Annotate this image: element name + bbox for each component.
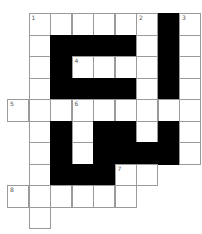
black-cell [115, 78, 137, 101]
black-cell [115, 142, 137, 165]
clue-number: 5 [10, 101, 14, 107]
black-cell [50, 78, 72, 101]
black-cell [158, 78, 180, 101]
grid-cell[interactable] [72, 121, 94, 144]
grid-cell[interactable] [93, 13, 115, 36]
grid-cell[interactable] [50, 185, 72, 208]
black-cell [93, 164, 115, 187]
grid-cell[interactable] [29, 207, 51, 230]
grid-cell[interactable] [29, 142, 51, 165]
black-cell [136, 142, 158, 165]
grid-cell[interactable] [115, 13, 137, 36]
grid-cell[interactable] [179, 35, 201, 58]
black-cell [93, 35, 115, 58]
grid-cell[interactable] [29, 99, 51, 122]
black-cell [158, 142, 180, 165]
black-cell [115, 35, 137, 58]
grid-cell[interactable]: 1 [29, 13, 51, 36]
black-cell [50, 121, 72, 144]
clue-number: 1 [32, 15, 36, 21]
grid-cell[interactable] [115, 185, 137, 208]
grid-cell[interactable] [50, 13, 72, 36]
grid-cell[interactable]: 4 [72, 56, 94, 79]
black-cell [158, 35, 180, 58]
grid-cell[interactable] [136, 56, 158, 79]
black-cell [93, 142, 115, 165]
grid-cell[interactable] [115, 56, 137, 79]
clue-number: 3 [182, 15, 186, 21]
grid-cell[interactable] [93, 99, 115, 122]
crossword-grid: 12345678 [7, 13, 201, 229]
black-cell [50, 35, 72, 58]
black-cell [158, 13, 180, 36]
black-cell [93, 78, 115, 101]
clue-number: 7 [118, 166, 122, 172]
grid-cell[interactable] [72, 185, 94, 208]
grid-cell[interactable] [136, 35, 158, 58]
grid-cell[interactable]: 5 [7, 99, 29, 122]
grid-cell[interactable] [136, 99, 158, 122]
grid-cell[interactable] [136, 164, 158, 187]
black-cell [158, 121, 180, 144]
grid-cell[interactable] [179, 78, 201, 101]
grid-cell[interactable]: 6 [72, 99, 94, 122]
grid-cell[interactable]: 8 [7, 185, 29, 208]
grid-cell[interactable] [179, 142, 201, 165]
grid-cell[interactable] [158, 99, 180, 122]
clue-number: 8 [10, 187, 14, 193]
grid-cell[interactable] [179, 56, 201, 79]
clue-number: 4 [75, 58, 79, 64]
grid-cell[interactable] [93, 185, 115, 208]
clue-number: 2 [139, 15, 143, 21]
grid-cell[interactable] [29, 35, 51, 58]
black-cell [72, 164, 94, 187]
grid-cell[interactable] [29, 78, 51, 101]
grid-cell[interactable] [136, 78, 158, 101]
grid-cell[interactable] [136, 121, 158, 144]
black-cell [50, 164, 72, 187]
grid-cell[interactable] [29, 56, 51, 79]
black-cell [50, 56, 72, 79]
black-cell [158, 56, 180, 79]
grid-cell[interactable] [179, 121, 201, 144]
grid-cell[interactable]: 3 [179, 13, 201, 36]
clue-number: 6 [75, 101, 79, 107]
grid-cell[interactable] [29, 164, 51, 187]
grid-cell[interactable] [72, 142, 94, 165]
grid-cell[interactable]: 7 [115, 164, 137, 187]
black-cell [93, 121, 115, 144]
black-cell [72, 78, 94, 101]
grid-cell[interactable] [29, 121, 51, 144]
black-cell [115, 121, 137, 144]
black-cell [50, 142, 72, 165]
grid-cell[interactable] [50, 99, 72, 122]
grid-cell[interactable] [115, 99, 137, 122]
grid-cell[interactable] [179, 99, 201, 122]
grid-cell[interactable] [72, 13, 94, 36]
grid-cell[interactable]: 2 [136, 13, 158, 36]
grid-cell[interactable] [29, 185, 51, 208]
black-cell [72, 35, 94, 58]
grid-cell[interactable] [93, 56, 115, 79]
